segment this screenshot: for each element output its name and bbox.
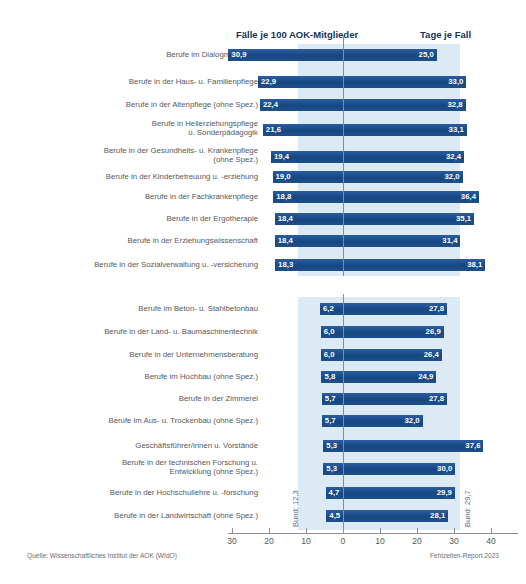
bar-faelle: 5,7 <box>322 415 343 427</box>
axis-tick-mark <box>269 528 270 533</box>
bar-value-tage: 33,1 <box>449 124 464 136</box>
bar-faelle: 6,2 <box>320 303 343 315</box>
bar-value-faelle: 5,3 <box>326 463 337 475</box>
axis-tick-label: 10 <box>301 536 311 546</box>
bar-tage: 32,0 <box>344 171 463 183</box>
category-label: Berufe in der Altenpflege (ohne Spez.) <box>8 100 258 109</box>
bar-row: Berufe in der Haus- u. Familienpflege22,… <box>0 76 526 88</box>
category-label: Berufe in der Hochschullehre u. -forschu… <box>8 488 258 497</box>
category-label: Berufe in Heilerziehungspflege u. Sonder… <box>8 119 258 137</box>
bund-reference-tage: Bund: 29,7 <box>463 490 472 527</box>
bar-tage: 33,1 <box>344 124 467 136</box>
bar-value-faelle: 22,9 <box>261 76 276 88</box>
bar-row: Berufe in der Unternehmensberatung6,026,… <box>0 349 526 361</box>
bar-value-faelle: 4,7 <box>329 487 340 499</box>
bar-tage: 36,4 <box>344 191 479 203</box>
bar-value-tage: 37,6 <box>465 440 480 452</box>
category-label: Berufe in der Sozialverwaltung u. -versi… <box>8 260 258 269</box>
bar-value-faelle: 18,4 <box>278 213 293 225</box>
bar-tage: 28,1 <box>344 510 448 522</box>
category-label: Berufe in der Ergotherapie <box>8 214 258 223</box>
bar-tage: 27,8 <box>344 393 447 405</box>
bar-value-faelle: 19,0 <box>276 171 291 183</box>
bar-value-tage: 38,1 <box>467 259 482 271</box>
axis-tick-mark <box>232 528 233 533</box>
axis-tick-mark <box>491 528 492 533</box>
bar-row: Berufe in der Zimmerei5,727,8 <box>0 393 526 405</box>
category-label: Berufe im Beton- u. Stahlbetonbau <box>8 304 258 313</box>
bar-value-faelle: 30,9 <box>231 49 246 61</box>
bar-row: Geschäftsführer/innen u. Vorstände5,337,… <box>0 440 526 452</box>
bar-value-faelle: 6,0 <box>324 349 335 361</box>
bar-faelle: 21,6 <box>263 124 343 136</box>
bar-faelle: 19,0 <box>273 171 343 183</box>
category-label: Berufe in der Haus- u. Familienpflege <box>8 77 258 86</box>
axis-tick-label: 30 <box>449 536 459 546</box>
bar-value-faelle: 5,7 <box>325 415 336 427</box>
bar-tage: 33,0 <box>344 76 466 88</box>
bar-value-faelle: 19,4 <box>274 151 289 163</box>
bar-value-faelle: 21,6 <box>266 124 281 136</box>
bar-faelle: 5,8 <box>321 371 343 383</box>
category-label: Berufe in der Erziehungswissenschaft <box>8 236 258 245</box>
axis-tick-label: 30 <box>227 536 237 546</box>
chart-figure: Fälle je 100 AOK-Mitglieder Tage je Fall… <box>0 0 526 584</box>
bar-row: Berufe in der Kinderbetreuung u. -erzieh… <box>0 171 526 183</box>
category-label: Berufe in der Fachkrankenpflege <box>8 192 258 201</box>
bar-value-tage: 24,9 <box>418 371 433 383</box>
bar-row: Berufe in der Fachkrankenpflege18,836,4 <box>0 191 526 203</box>
bar-tage: 25,0 <box>344 49 437 61</box>
bar-value-faelle: 6,0 <box>324 326 335 338</box>
bar-value-tage: 27,8 <box>429 303 444 315</box>
bar-row: Berufe in der Ergotherapie18,435,1 <box>0 213 526 225</box>
bar-row: Berufe im Aus- u. Trockenbau (ohne Spez.… <box>0 415 526 427</box>
bar-faelle: 5,3 <box>323 440 343 452</box>
bar-value-faelle: 5,3 <box>326 440 337 452</box>
bar-tage: 32,4 <box>344 151 464 163</box>
category-label: Berufe im Dialogmarketing <box>8 50 258 59</box>
axis-tick-mark <box>306 528 307 533</box>
bar-row: Berufe in der Altenpflege (ohne Spez.)22… <box>0 99 526 111</box>
axis-tick-label: 0 <box>341 536 346 546</box>
axis-tick-label: 20 <box>264 536 274 546</box>
bar-value-tage: 32,0 <box>445 171 460 183</box>
bar-value-tage: 35,1 <box>456 213 471 225</box>
bar-value-faelle: 18,8 <box>276 191 291 203</box>
category-label: Berufe im Hochbau (ohne Spez.) <box>8 372 258 381</box>
bar-value-faelle: 22,4 <box>263 99 278 111</box>
bar-value-faelle: 18,4 <box>278 235 293 247</box>
bar-tage: 37,6 <box>344 440 483 452</box>
bar-faelle: 18,8 <box>273 191 343 203</box>
bar-row: Berufe im Dialogmarketing30,925,0 <box>0 49 526 61</box>
category-label: Berufe in der Unternehmensberatung <box>8 350 258 359</box>
bar-faelle: 6,0 <box>321 326 343 338</box>
bar-value-tage: 27,8 <box>429 393 444 405</box>
category-label: Berufe in der Zimmerei <box>8 394 258 403</box>
bund-reference-faelle: Bund: 12,3 <box>291 490 300 527</box>
axis-tick-label: 10 <box>375 536 385 546</box>
bar-tage: 31,4 <box>344 235 460 247</box>
bar-value-faelle: 18,3 <box>278 259 293 271</box>
category-label: Berufe im Aus- u. Trockenbau (ohne Spez.… <box>8 416 258 425</box>
bar-tage: 38,1 <box>344 259 485 271</box>
bar-row: Berufe in der Gesundheits- u. Krankenpfl… <box>0 151 526 163</box>
bar-faelle: 5,7 <box>322 393 343 405</box>
bar-tage: 24,9 <box>344 371 436 383</box>
bar-row: Berufe in der Sozialverwaltung u. -versi… <box>0 259 526 271</box>
bar-row: Berufe in der Erziehungswissenschaft18,4… <box>0 235 526 247</box>
axis-tick-mark <box>417 528 418 533</box>
bar-value-tage: 25,0 <box>419 49 434 61</box>
bar-row: Berufe in der technischen Forschung u. E… <box>0 463 526 475</box>
axis-tick-mark <box>454 528 455 533</box>
bar-value-tage: 30,0 <box>437 463 452 475</box>
bar-value-faelle: 6,2 <box>323 303 334 315</box>
bar-faelle: 30,9 <box>228 49 343 61</box>
category-label: Berufe in der Kinderbetreuung u. -erzieh… <box>8 172 258 181</box>
axis-tick-label: 20 <box>412 536 422 546</box>
bar-faelle: 4,5 <box>326 510 343 522</box>
bar-tage: 32,8 <box>344 99 466 111</box>
bar-value-tage: 36,4 <box>461 191 476 203</box>
bar-faelle: 22,4 <box>260 99 343 111</box>
bar-value-faelle: 5,8 <box>324 371 335 383</box>
axis-tick-mark <box>380 528 381 533</box>
